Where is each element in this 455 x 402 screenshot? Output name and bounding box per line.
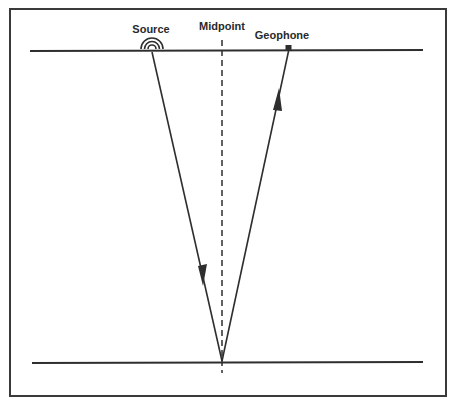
seismic-diagram: Source Midpoint Geophone <box>0 0 455 402</box>
reflector-line <box>32 362 423 363</box>
frame-border <box>10 9 446 396</box>
source-label: Source <box>132 23 169 35</box>
source-wave-icon <box>141 38 163 49</box>
surface-line <box>30 50 423 51</box>
down-arrow-icon <box>198 264 207 286</box>
geophone-label: Geophone <box>255 29 309 41</box>
incident-ray <box>152 52 222 361</box>
geophone-marker-icon <box>286 45 292 50</box>
midpoint-label: Midpoint <box>199 20 245 32</box>
